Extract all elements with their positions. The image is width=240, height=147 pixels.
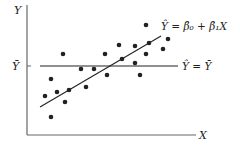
data-point [63,100,68,105]
data-point [103,52,108,57]
data-point [138,73,143,78]
regression-line [40,36,161,107]
mean-line-label: Ŷ = Ȳ [182,59,212,72]
data-point [92,67,97,72]
data-point [166,37,171,42]
data-point [144,52,149,57]
data-point [55,90,60,95]
regression-line-label: Ŷ = β̂₀ + β̂₁X [161,19,227,32]
data-point [49,77,54,82]
data-point [49,115,54,120]
data-point [67,88,72,93]
data-point [105,73,110,78]
y-axis-label: Y [14,4,23,17]
x-axis-label: X [198,129,208,142]
data-point [133,61,138,66]
data-point [161,47,166,52]
data-point [133,44,138,49]
data-point [79,67,84,72]
data-points [43,23,171,120]
regression-diagram: Y X Ȳ Ŷ = β̂₀ + β̂₁X Ŷ = Ȳ [0,0,240,147]
data-point [61,52,66,57]
data-point [147,41,152,46]
data-point [84,85,89,90]
ybar-label: Ȳ [12,60,21,73]
data-point [120,57,125,62]
data-point [43,94,48,99]
data-point [117,43,122,48]
data-point [144,23,149,28]
